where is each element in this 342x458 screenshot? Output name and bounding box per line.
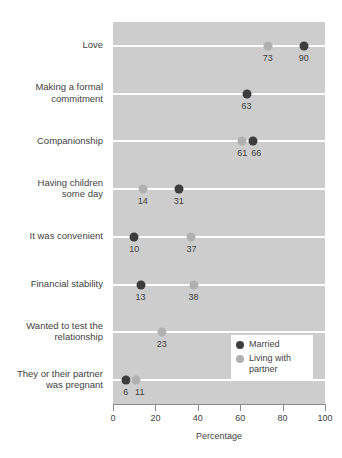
data-point — [136, 280, 145, 289]
x-axis-tick-label: 40 — [193, 413, 203, 423]
category-label-line: commitment — [0, 93, 103, 105]
data-point-value: 37 — [186, 244, 196, 254]
category-label: Having childrensome day — [0, 177, 108, 200]
data-point-value: 90 — [299, 53, 309, 63]
legend-item-label: Married — [249, 339, 280, 350]
x-axis-tick-label: 60 — [235, 413, 245, 423]
category-label-line: some day — [0, 188, 103, 200]
data-point — [132, 376, 141, 385]
gridline — [113, 236, 325, 238]
data-point — [263, 41, 272, 50]
data-point — [174, 185, 183, 194]
category-label-line: Love — [0, 39, 103, 51]
category-label-line: Financial stability — [0, 278, 103, 290]
category-label: They or their partnerwas pregnant — [0, 368, 108, 391]
category-label: Companionship — [0, 135, 108, 147]
x-axis-tick-label: 0 — [110, 413, 115, 423]
dot-plot-chart: LoveMaking a formalcommitmentCompanionsh… — [0, 0, 342, 458]
data-point-value: 31 — [174, 196, 184, 206]
category-label-line: They or their partner — [0, 368, 103, 380]
category-label-line: relationship — [0, 331, 103, 343]
legend-item[interactable]: Married — [236, 339, 308, 350]
x-axis-title: Percentage — [113, 431, 325, 441]
x-axis-tick-label: 20 — [150, 413, 160, 423]
x-axis-tick-label: 100 — [317, 413, 332, 423]
data-point — [130, 232, 139, 241]
legend-marker-icon — [236, 355, 244, 363]
data-point-value: 38 — [189, 292, 199, 302]
data-point — [121, 376, 130, 385]
data-point — [238, 137, 247, 146]
category-label-line: was pregnant — [0, 379, 103, 391]
x-axis-tick — [240, 404, 241, 411]
legend-item[interactable]: Living with partner — [236, 353, 308, 375]
category-label-line: Companionship — [0, 135, 103, 147]
data-point — [157, 328, 166, 337]
data-point — [189, 280, 198, 289]
data-point-value: 6 — [123, 387, 128, 397]
category-label: Making a formalcommitment — [0, 81, 108, 104]
gridline — [113, 45, 325, 47]
data-point — [138, 185, 147, 194]
data-point-value: 63 — [242, 101, 252, 111]
x-axis-tick — [155, 404, 156, 411]
chart-legend: MarriedLiving with partner — [231, 335, 313, 381]
category-label: Wanted to test therelationship — [0, 320, 108, 343]
x-axis-tick — [283, 404, 284, 411]
data-point — [187, 232, 196, 241]
x-axis-tick — [198, 404, 199, 411]
x-axis-line — [113, 404, 325, 405]
data-point — [248, 137, 257, 146]
data-point-value: 13 — [136, 292, 146, 302]
data-point — [299, 41, 308, 50]
legend-marker-icon — [236, 341, 244, 349]
data-point-value: 66 — [251, 148, 261, 158]
gridline — [113, 331, 325, 333]
legend-item-label: Living with partner — [249, 353, 308, 375]
x-axis-tick — [113, 404, 114, 411]
category-label-line: Wanted to test the — [0, 320, 103, 332]
x-axis-tick-label: 80 — [278, 413, 288, 423]
category-label-line: Making a formal — [0, 81, 103, 93]
gridline — [113, 93, 325, 95]
category-label: Financial stability — [0, 278, 108, 290]
category-label: Love — [0, 39, 108, 51]
category-label-line: Having children — [0, 177, 103, 189]
category-label: It was convenient — [0, 230, 108, 242]
data-point-value: 14 — [138, 196, 148, 206]
gridline — [113, 140, 325, 142]
category-label-line: It was convenient — [0, 230, 103, 242]
data-point — [242, 89, 251, 98]
x-axis-tick — [325, 404, 326, 411]
data-point-value: 23 — [157, 339, 167, 349]
data-point-value: 11 — [135, 387, 144, 397]
data-point-value: 61 — [237, 148, 247, 158]
data-point-value: 10 — [129, 244, 139, 254]
data-point-value: 73 — [263, 53, 273, 63]
